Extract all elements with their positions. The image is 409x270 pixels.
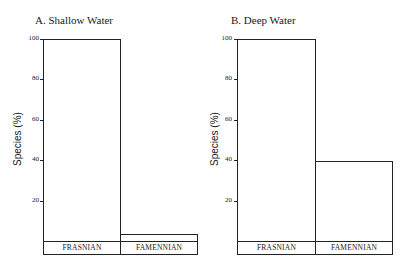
bar-frasnian [237, 39, 316, 242]
category-label-frasnian: FRASNIAN [237, 241, 316, 255]
category-label-famennian: FAMENNIAN [315, 241, 393, 255]
y-tick-100: 100 [212, 34, 232, 42]
panel-title: B. Deep Water [231, 14, 296, 26]
bar-famennian [315, 161, 393, 242]
y-tick-60: 60 [212, 115, 232, 123]
y-tick-20: 20 [212, 196, 232, 204]
y-tick-40: 40 [212, 155, 232, 163]
panel-deep-water: B. Deep Water Species (%) 100 80 60 40 2… [0, 0, 409, 270]
y-tick-80: 80 [212, 74, 232, 82]
